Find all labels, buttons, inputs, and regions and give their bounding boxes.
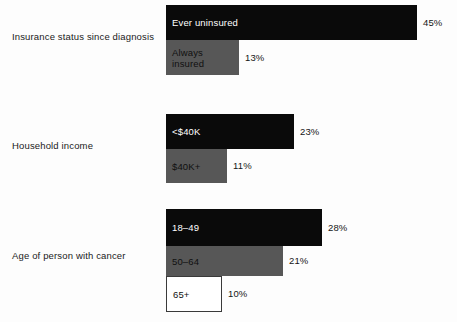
bar-chart: Insurance status since diagnosisEver uni… [0,0,457,322]
bar-row: <$40K [166,114,294,149]
bar[interactable]: 18–49 [166,209,322,246]
bar-value-label: 23% [300,126,319,137]
bar-category-label: 65+ [167,289,190,300]
bar-row: 18–49 [166,209,322,246]
bar[interactable]: 50–64 [166,246,283,276]
bar-category-label: Ever uninsured [166,17,238,28]
bar-category-label: Always insured [166,47,204,69]
bar[interactable]: Ever uninsured [166,5,417,40]
bar-row: 65+ [166,276,222,312]
bar-category-label: 18–49 [166,222,199,233]
bar-row: 50–64 [166,246,283,276]
bar[interactable]: $40K+ [166,149,227,183]
group-label: Insurance status since diagnosis [12,31,154,42]
bar-category-label: $40K+ [166,161,201,172]
bar-value-label: 28% [328,222,347,233]
bar-category-label: 50–64 [166,256,199,267]
group-label: Age of person with cancer [12,250,126,261]
bar-value-label: 11% [233,160,252,171]
bar-row: Always insured [166,40,239,75]
bar-category-label: <$40K [166,126,201,137]
bar-row: Ever uninsured [166,5,417,40]
bar-value-label: 13% [245,52,264,63]
bar-value-label: 10% [228,288,247,299]
bar[interactable]: Always insured [166,40,239,75]
bar-value-label: 21% [289,255,308,266]
bar-value-label: 45% [423,17,442,28]
bar-row: $40K+ [166,149,227,183]
bar[interactable]: <$40K [166,114,294,149]
group-label: Household income [12,140,93,151]
bar[interactable]: 65+ [166,276,222,312]
